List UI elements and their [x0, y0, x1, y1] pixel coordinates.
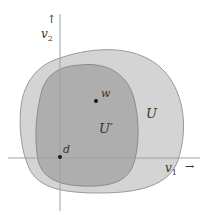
region-U-prime [36, 64, 138, 186]
arrow-right-icon: → [185, 160, 194, 173]
label-d: d [63, 143, 70, 156]
point-w [94, 99, 98, 103]
point-d [58, 155, 62, 159]
diagram-canvas: w d U U′ v1 → ↑ v2 [0, 0, 212, 222]
label-U-prime: U′ [99, 121, 113, 136]
axis-label-v2: v2 [41, 27, 53, 43]
label-U: U [146, 106, 158, 121]
arrow-up-icon: ↑ [47, 13, 56, 26]
label-w: w [101, 87, 111, 100]
